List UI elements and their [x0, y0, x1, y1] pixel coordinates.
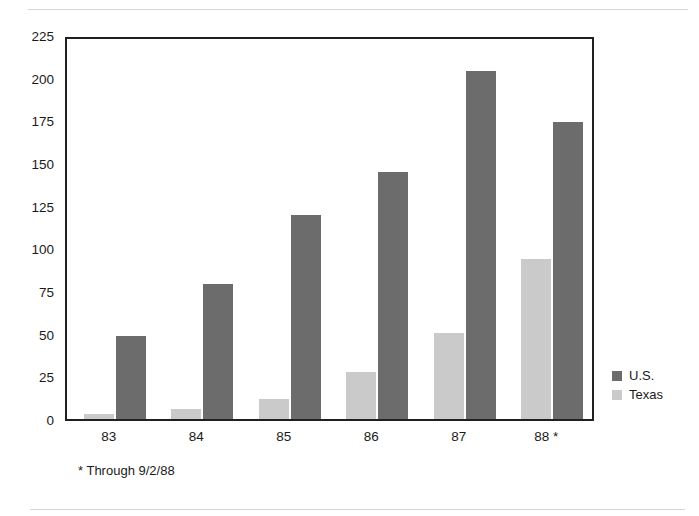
y-axis-tick-50: 50 — [0, 329, 54, 343]
x-axis-tick-86: 86 — [328, 430, 416, 444]
x-axis-tick-labels: 838485868788 * — [65, 430, 594, 450]
x-axis-tick-87: 87 — [415, 430, 503, 444]
chart-footnote: * Through 9/2/88 — [78, 464, 175, 477]
chart-legend: U.S. Texas — [612, 366, 696, 404]
y-axis-tick-125: 125 — [0, 201, 54, 215]
bar-us-85 — [291, 215, 321, 419]
y-axis-tick-75: 75 — [0, 286, 54, 300]
bar-us-86 — [378, 172, 408, 419]
legend-swatch-texas-icon — [612, 390, 622, 400]
y-axis-tick-225: 225 — [0, 30, 54, 44]
y-axis-tick-200: 200 — [0, 73, 54, 87]
y-axis-tick-labels: 0255075100125150175200225 — [0, 0, 58, 516]
legend-swatch-us-icon — [612, 371, 622, 381]
legend-label-texas: Texas — [629, 388, 663, 401]
y-axis-tick-25: 25 — [0, 371, 54, 385]
x-axis-tick-83: 83 — [65, 430, 153, 444]
legend-item-us: U.S. — [612, 366, 696, 385]
bar-texas-86 — [346, 372, 376, 419]
bar-chart-figure: 0255075100125150175200225 838485868788 *… — [0, 0, 699, 516]
x-axis-tick-85: 85 — [240, 430, 328, 444]
bar-texas-87 — [434, 333, 464, 419]
x-axis-tick-88: 88 * — [503, 430, 591, 444]
bars-layer — [67, 39, 592, 419]
legend-label-us: U.S. — [629, 369, 654, 382]
bar-texas-84 — [171, 409, 201, 419]
bar-texas-85 — [259, 399, 289, 419]
y-axis-tick-100: 100 — [0, 243, 54, 257]
y-axis-tick-0: 0 — [0, 414, 54, 428]
bar-us-83 — [116, 336, 146, 419]
x-axis-tick-84: 84 — [153, 430, 241, 444]
legend-item-texas: Texas — [612, 385, 696, 404]
bar-texas-88 — [521, 259, 551, 419]
bar-us-84 — [203, 284, 233, 419]
bar-texas-83 — [84, 414, 114, 419]
bar-us-88 — [553, 122, 583, 419]
bar-us-87 — [466, 71, 496, 419]
y-axis-tick-175: 175 — [0, 115, 54, 129]
y-axis-tick-150: 150 — [0, 158, 54, 172]
